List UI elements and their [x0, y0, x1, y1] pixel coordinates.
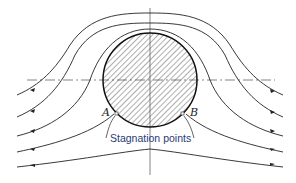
streamline-4b [186, 114, 283, 152]
caption-stagnation-points: Stagnation points [110, 132, 191, 144]
stagnation-point-b [181, 112, 184, 115]
label-point-a: A [102, 106, 110, 119]
flow-diagram [0, 0, 296, 183]
stagnation-point-a [115, 112, 118, 115]
streamline-4 [17, 114, 114, 152]
label-point-b: B [190, 106, 198, 119]
diagram-canvas: A B Stagnation points [0, 0, 296, 183]
